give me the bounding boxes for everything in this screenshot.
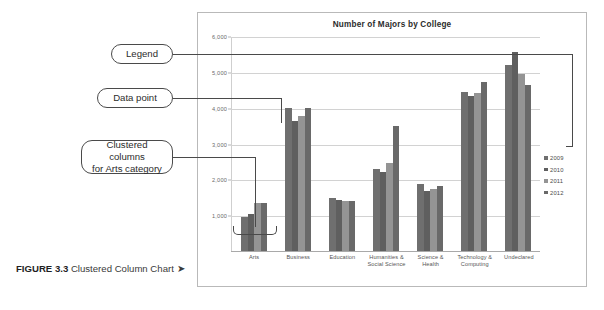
x-axis-category-label: Technology &Computing: [453, 254, 497, 268]
x-axis-category-labels: ArtsBusinessEducationHumanities &Social …: [232, 254, 541, 268]
callout-data-point: Data point: [97, 88, 173, 108]
x-axis-category-label: Education: [320, 254, 364, 268]
legend-label: 2012: [550, 190, 564, 196]
y-axis-tick-label: 6,000: [212, 34, 227, 40]
bar: [481, 82, 488, 251]
legend-item: 2010: [544, 167, 564, 173]
chart-legend: 2009201020112012: [544, 155, 564, 201]
legend-item: 2011: [544, 178, 564, 184]
bar: [525, 85, 532, 251]
arts-cluster-bracket: [233, 226, 277, 235]
figure-caption-title: Clustered Column Chart: [71, 263, 174, 274]
x-axis-category-label: Arts: [232, 254, 276, 268]
bar: [393, 126, 400, 251]
bar-cluster: [408, 37, 452, 251]
x-axis-line: [231, 251, 540, 252]
figure-caption: FIGURE 3.3 Clustered Column Chart ➤: [16, 262, 191, 276]
callout-clustered-columns: Clustered columns for Arts category: [81, 140, 173, 174]
bar-cluster: [452, 37, 496, 251]
x-axis-category-label: Science &Health: [409, 254, 453, 268]
figure-container: Number of Majors by College 1,0002,0003,…: [0, 0, 604, 310]
leader-legend-horizontal: [173, 54, 573, 55]
legend-swatch-icon: [544, 168, 548, 172]
legend-swatch-icon: [544, 191, 548, 195]
figure-caption-label: FIGURE 3.3: [16, 263, 68, 274]
legend-item: 2009: [544, 155, 564, 161]
leader-cluster-vertical: [255, 157, 256, 227]
bar-cluster: [320, 37, 364, 251]
leader-legend-vertical: [572, 54, 573, 146]
bar: [437, 186, 444, 251]
figure-caption-arrow-icon: ➤: [177, 263, 185, 274]
legend-label: 2010: [550, 167, 564, 173]
callout-legend-label: Legend: [126, 48, 158, 60]
plot-area: 1,0002,0003,0004,0005,0006,000: [231, 37, 540, 252]
leader-cluster-horizontal: [173, 157, 255, 158]
callout-data-point-label: Data point: [113, 92, 157, 104]
chart-title: Number of Majors by College: [198, 20, 586, 29]
leader-legend-tail: [566, 146, 573, 147]
y-axis-tick-mark: [228, 180, 231, 181]
y-axis-tick-mark: [228, 37, 231, 38]
leader-datapoint-vertical: [281, 98, 282, 123]
bar-cluster: [364, 37, 408, 251]
leader-datapoint-horizontal: [173, 98, 281, 99]
bar-cluster: [496, 37, 540, 251]
callout-clustered-columns-line1: Clustered columns: [91, 139, 163, 163]
bar: [349, 201, 356, 251]
bar-clusters: [232, 37, 540, 251]
legend-item: 2012: [544, 190, 564, 196]
x-axis-category-label: Business: [276, 254, 320, 268]
bar: [305, 108, 312, 251]
x-axis-category-label: Humanities &Social Science: [364, 254, 408, 268]
callout-clustered-columns-line2: for Arts category: [91, 163, 163, 175]
callout-legend: Legend: [111, 44, 173, 64]
y-axis-tick-label: 2,000: [212, 177, 227, 183]
legend-label: 2009: [550, 155, 564, 161]
legend-swatch-icon: [544, 156, 548, 160]
y-axis-tick-mark: [228, 144, 231, 145]
y-axis-tick-mark: [228, 216, 231, 217]
legend-swatch-icon: [544, 179, 548, 183]
y-axis-tick-label: 5,000: [212, 70, 227, 76]
y-axis-tick-label: 4,000: [212, 106, 227, 112]
y-axis-tick-mark: [228, 72, 231, 73]
y-axis-tick-label: 1,000: [212, 213, 227, 219]
legend-label: 2011: [550, 178, 563, 184]
y-axis-tick-label: 3,000: [212, 142, 227, 148]
bar-cluster: [232, 37, 276, 251]
bar-cluster: [276, 37, 320, 251]
y-axis-tick-mark: [228, 108, 231, 109]
x-axis-category-label: Undeclared: [497, 254, 541, 268]
